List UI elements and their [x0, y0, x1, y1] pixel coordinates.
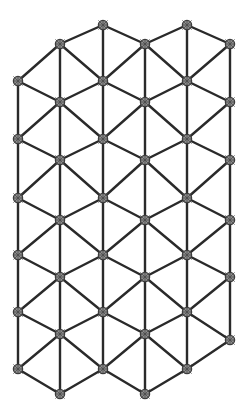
lattice-edge	[145, 25, 187, 44]
lattice-edge	[187, 160, 230, 198]
lattice-edge	[187, 44, 230, 81]
lattice-edge	[60, 369, 103, 394]
lattice-node	[55, 155, 64, 164]
lattice-edge	[18, 334, 60, 369]
lattice-node	[55, 215, 64, 224]
lattice-node	[98, 193, 107, 202]
lattice-node	[225, 97, 234, 106]
lattice-node	[13, 364, 22, 373]
lattice-edge	[187, 220, 230, 255]
lattice-edge	[145, 198, 187, 220]
lattice-node	[98, 20, 107, 29]
lattice-edge	[60, 102, 103, 139]
lattice-node	[13, 193, 22, 202]
lattice-node	[182, 20, 191, 29]
lattice-edge-layer	[18, 25, 230, 394]
lattice-edge	[103, 369, 145, 394]
lattice-node	[225, 335, 234, 344]
lattice-edge	[187, 340, 230, 369]
lattice-edge	[145, 44, 187, 81]
lattice-edge	[145, 255, 187, 277]
lattice-edge	[145, 312, 187, 334]
lattice-edge	[145, 139, 187, 160]
lattice-edge	[18, 102, 60, 139]
lattice-node	[225, 155, 234, 164]
lattice-node	[140, 272, 149, 281]
lattice-edge	[18, 220, 60, 255]
lattice-edge	[18, 255, 60, 277]
lattice-edge	[60, 312, 103, 334]
lattice-edge	[145, 81, 187, 102]
lattice-edge	[18, 44, 60, 81]
lattice-diagram	[0, 0, 247, 414]
lattice-edge	[18, 312, 60, 334]
lattice-edge	[187, 25, 230, 44]
lattice-node	[182, 307, 191, 316]
lattice-edge	[103, 277, 145, 312]
lattice-edge	[103, 44, 145, 81]
lattice-edge	[60, 160, 103, 198]
lattice-node	[55, 39, 64, 48]
lattice-edge	[145, 334, 187, 369]
lattice-node	[55, 389, 64, 398]
lattice-edge	[60, 44, 103, 81]
lattice-edge	[18, 160, 60, 198]
lattice-node	[13, 307, 22, 316]
lattice-edge	[60, 81, 103, 102]
lattice-edge	[187, 81, 230, 102]
lattice-edge	[187, 312, 230, 340]
lattice-node	[13, 76, 22, 85]
lattice-edge	[145, 160, 187, 198]
lattice-edge	[103, 81, 145, 102]
lattice-edge	[60, 255, 103, 277]
lattice-node	[55, 272, 64, 281]
lattice-node	[13, 134, 22, 143]
lattice-node	[182, 134, 191, 143]
lattice-edge	[60, 139, 103, 160]
lattice-edge	[145, 220, 187, 255]
lattice-node	[55, 97, 64, 106]
lattice-node	[140, 39, 149, 48]
lattice-node	[140, 97, 149, 106]
lattice-node	[98, 76, 107, 85]
lattice-edge	[18, 139, 60, 160]
lattice-edge	[187, 102, 230, 139]
lattice-node	[13, 250, 22, 259]
lattice-node	[140, 155, 149, 164]
lattice-edge	[60, 25, 103, 44]
lattice-node	[98, 250, 107, 259]
lattice-edge	[103, 25, 145, 44]
lattice-edge	[60, 277, 103, 312]
lattice-edge	[18, 198, 60, 220]
lattice-edge	[187, 139, 230, 160]
lattice-edge	[103, 220, 145, 255]
lattice-edge	[145, 277, 187, 312]
lattice-edge	[60, 334, 103, 369]
lattice-node	[225, 39, 234, 48]
lattice-edge	[60, 220, 103, 255]
lattice-edge	[103, 102, 145, 139]
lattice-node	[182, 364, 191, 373]
lattice-node	[98, 307, 107, 316]
lattice-node	[140, 215, 149, 224]
lattice-edge	[60, 198, 103, 220]
lattice-edge	[187, 255, 230, 277]
lattice-canvas	[0, 0, 247, 414]
lattice-edge	[103, 160, 145, 198]
lattice-node	[98, 134, 107, 143]
lattice-edge	[103, 198, 145, 220]
lattice-edge	[18, 81, 60, 102]
lattice-node	[182, 76, 191, 85]
lattice-edge	[18, 369, 60, 394]
lattice-node	[182, 250, 191, 259]
lattice-edge	[145, 369, 187, 394]
lattice-node	[55, 329, 64, 338]
lattice-node	[98, 364, 107, 373]
lattice-edge	[187, 198, 230, 220]
lattice-edge	[103, 139, 145, 160]
lattice-node	[225, 272, 234, 281]
lattice-node	[182, 193, 191, 202]
lattice-edge	[187, 277, 230, 312]
lattice-node	[140, 329, 149, 338]
lattice-edge	[145, 102, 187, 139]
